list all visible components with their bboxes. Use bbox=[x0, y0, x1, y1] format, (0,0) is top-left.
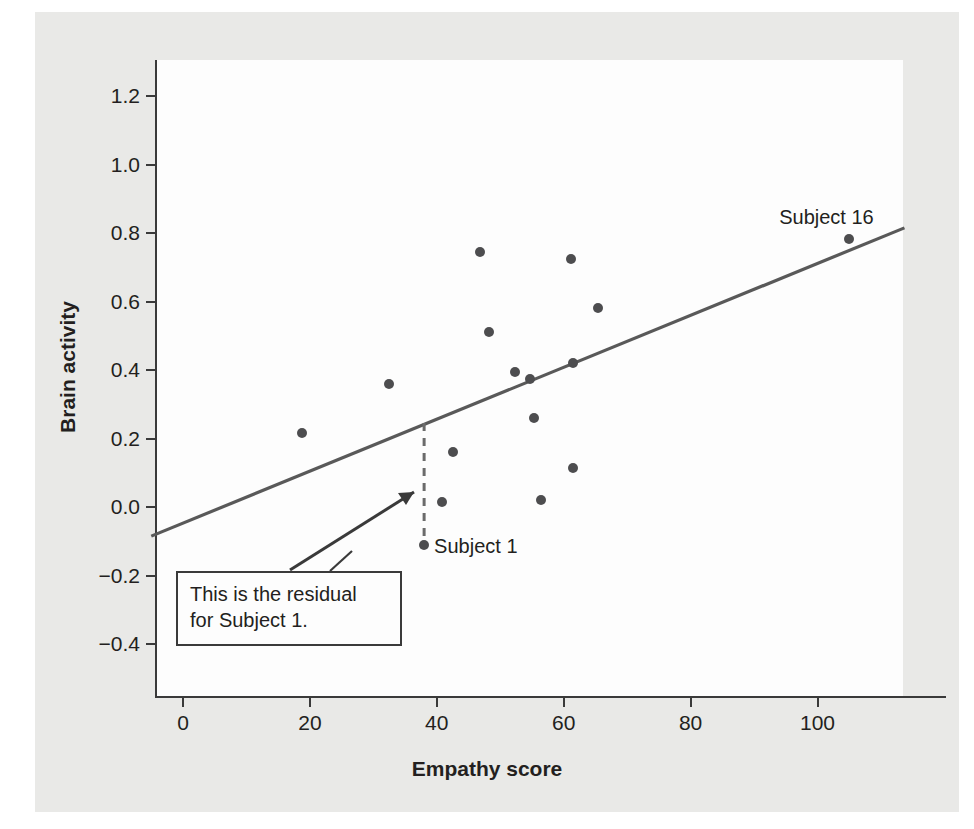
data-point bbox=[448, 447, 458, 457]
callout-arrow bbox=[290, 492, 414, 570]
data-point bbox=[384, 379, 394, 389]
data-point bbox=[568, 463, 578, 473]
residual-callout-box: This is the residual for Subject 1. bbox=[176, 571, 402, 646]
subject-16-label: Subject 16 bbox=[779, 207, 874, 227]
figure-page: −0.4−0.20.00.20.40.60.81.01.2 0204060801… bbox=[0, 0, 974, 829]
data-point bbox=[475, 247, 485, 257]
data-point bbox=[529, 413, 539, 423]
subject-1-label: Subject 1 bbox=[434, 536, 517, 556]
chart-vector-overlay bbox=[0, 0, 974, 829]
data-point bbox=[536, 495, 546, 505]
data-point bbox=[419, 540, 429, 550]
data-point bbox=[566, 254, 576, 264]
data-point bbox=[437, 497, 447, 507]
data-point bbox=[844, 234, 854, 244]
callout-line-1: This is the residual bbox=[190, 581, 390, 607]
callout-line-2: for Subject 1. bbox=[190, 607, 390, 633]
callout-leader-line bbox=[330, 551, 352, 571]
data-point bbox=[525, 374, 535, 384]
